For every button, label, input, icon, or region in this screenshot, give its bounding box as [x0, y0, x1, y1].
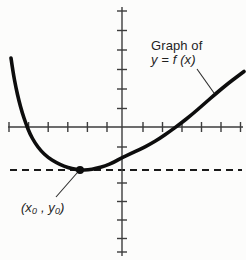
function-graph-canvas [0, 0, 246, 260]
curve-label-leader-line [197, 69, 214, 93]
function-graph-figure: Graph of y = f (x) (x₀ , y₀) [0, 0, 246, 260]
point-annotation: (x₀ , y₀) [21, 200, 64, 215]
curve-annotation-line1: Graph of [151, 39, 202, 53]
function-curve [11, 58, 244, 170]
curve-annotation-line2: y = f (x) [151, 53, 202, 67]
curve-annotation: Graph of y = f (x) [151, 39, 202, 67]
point-label-leader-line [56, 173, 77, 197]
minimum-point-dot [76, 166, 84, 174]
